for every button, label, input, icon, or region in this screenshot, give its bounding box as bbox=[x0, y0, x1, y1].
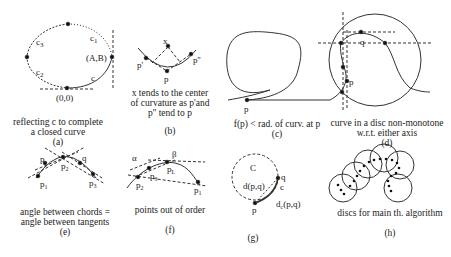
panel-a-diagram: c3 c1 c2 c (A,B) (0,0) bbox=[25, 22, 114, 103]
panel-g-diagram: C d(p,q) q c p dc(p,q) bbox=[232, 154, 300, 215]
label-c2: c2 bbox=[36, 67, 44, 79]
label-p3: p3 bbox=[89, 178, 97, 189]
caption-c: f(p) < rad. of curv. at p (c) bbox=[222, 119, 332, 139]
panel-letter: (c) bbox=[222, 129, 332, 139]
panel-e-diagram: p q p1 p2 p3 bbox=[28, 147, 105, 190]
caption-b: x tends to the center of curvature as p'… bbox=[120, 88, 220, 136]
caption-line: x tends to the center bbox=[120, 88, 220, 98]
label-p: p bbox=[252, 205, 257, 215]
label-q: q bbox=[360, 37, 365, 47]
label-q: q bbox=[82, 153, 87, 163]
label-c: c bbox=[280, 182, 284, 192]
caption-line: w.r.t. either axis bbox=[322, 128, 451, 138]
panel-letter: (f) bbox=[120, 225, 220, 235]
panel-b-diagram: x p' p p'' bbox=[137, 36, 201, 84]
label-q: q bbox=[281, 172, 286, 182]
label-C: C bbox=[250, 163, 256, 173]
panel-f-diagram: α β p2 p3 pL p1 bbox=[127, 149, 207, 196]
label-beta: β bbox=[172, 149, 177, 159]
caption-a: reflecting c to complete a closed curve … bbox=[8, 117, 108, 147]
label-p-prime: p' bbox=[137, 60, 144, 70]
caption-line: angle between tangents bbox=[10, 217, 120, 227]
panel-c-diagram: p bbox=[227, 32, 330, 114]
panel-h-diagram bbox=[329, 144, 414, 202]
label-p-double-prime: p'' bbox=[193, 55, 201, 65]
label-alpha: α bbox=[132, 153, 137, 163]
caption-f: points out of order (f) bbox=[120, 205, 220, 235]
panel-letter: (g) bbox=[228, 233, 278, 243]
caption-line: points out of order bbox=[120, 205, 220, 215]
caption-line: f(p) < rad. of curv. at p bbox=[222, 119, 332, 129]
panel-d-diagram: q p bbox=[318, 12, 432, 110]
label-c1: c1 bbox=[90, 33, 98, 45]
caption-line: discs for main th. algorithm bbox=[325, 208, 451, 218]
caption-e: angle between chords = angle between tan… bbox=[10, 207, 120, 237]
caption-line: curve in a disc non-monotone bbox=[322, 118, 451, 128]
label-dpq: d(p,q) bbox=[243, 181, 265, 191]
label-p: p bbox=[244, 104, 249, 114]
panel-letter: (b) bbox=[120, 126, 220, 136]
label-x: x bbox=[163, 36, 168, 46]
panel-letter: (d) bbox=[322, 138, 451, 148]
panel-letter: (e) bbox=[10, 227, 120, 237]
label-p: p bbox=[164, 74, 169, 84]
label-c: c bbox=[91, 73, 95, 83]
label-pL: pL bbox=[167, 164, 176, 175]
caption-line: a closed curve bbox=[8, 127, 108, 137]
panel-letter: (h) bbox=[325, 228, 451, 238]
label-origin: (0,0) bbox=[56, 93, 73, 103]
label-p: p bbox=[349, 77, 354, 87]
caption-h: discs for main th. algorithm (h) bbox=[325, 208, 451, 238]
caption-line: angle between chords = bbox=[10, 207, 120, 217]
label-c3: c3 bbox=[36, 37, 44, 49]
caption-d: curve in a disc non-monotone w.r.t. eith… bbox=[322, 118, 451, 148]
caption-line: of curvature as p'and bbox=[120, 98, 220, 108]
label-dcpq: dc(p,q) bbox=[276, 199, 300, 210]
label-p1: p1 bbox=[194, 185, 202, 196]
panel-letter: (a) bbox=[8, 137, 108, 147]
label-p1: p1 bbox=[40, 179, 48, 190]
caption-g: (g) bbox=[228, 233, 278, 243]
label-p: p bbox=[40, 154, 45, 164]
caption-line: reflecting c to complete bbox=[8, 117, 108, 127]
label-p2: p2 bbox=[136, 180, 144, 191]
label-AB: (A,B) bbox=[86, 53, 107, 63]
label-p3: p3 bbox=[150, 171, 158, 182]
label-p2: p2 bbox=[61, 161, 69, 172]
caption-line: p'' tend to p bbox=[120, 108, 220, 118]
